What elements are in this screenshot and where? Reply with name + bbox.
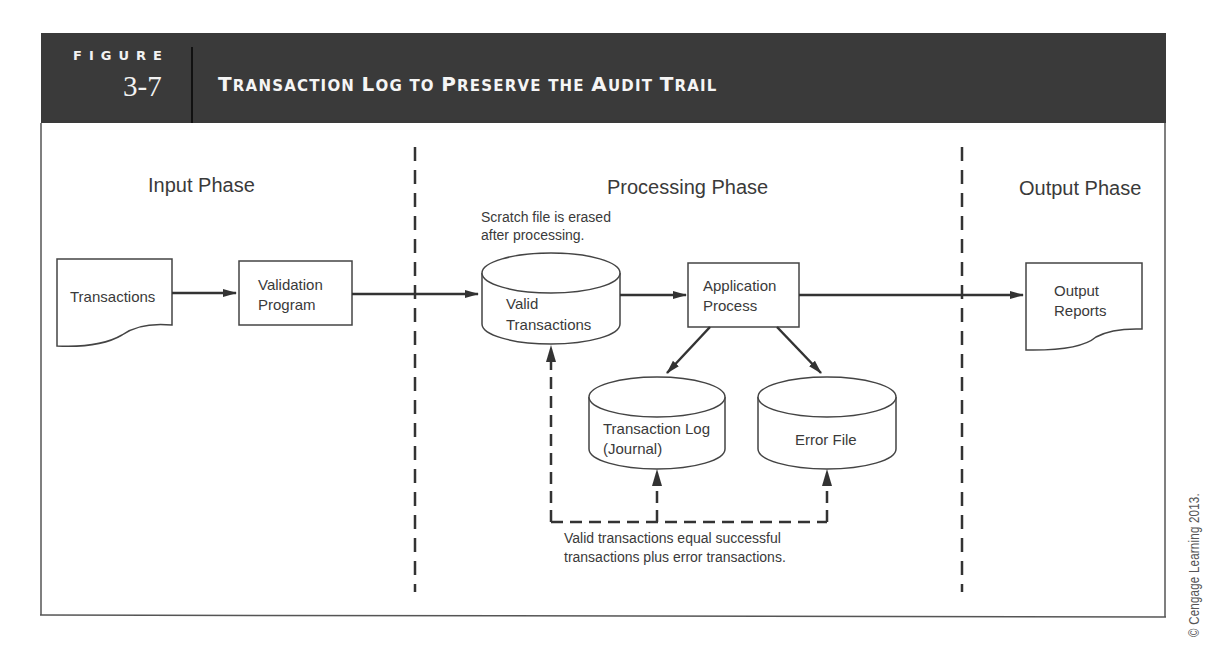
phase-title-processing: Processing Phase — [607, 176, 768, 198]
node-valid-transactions-line1: Valid — [506, 295, 538, 312]
reconcile-note-line2: transactions plus error transactions. — [564, 549, 786, 565]
edge-application-transaction-log — [667, 327, 710, 373]
node-transaction-log: Transaction Log (Journal) — [589, 377, 725, 469]
node-transactions-label: Transactions — [70, 288, 155, 305]
scratch-note-line2: after processing. — [481, 227, 585, 243]
node-transaction-log-line1: Transaction Log — [603, 420, 710, 437]
node-validation-program-line2: Program — [258, 296, 316, 313]
node-transaction-log-line2: (Journal) — [603, 440, 662, 457]
diagram-canvas: Input Phase Processing Phase Output Phas… — [0, 0, 1226, 652]
node-error-file-label: Error File — [795, 431, 857, 448]
node-error-file: Error File — [758, 377, 896, 469]
node-application-process-line2: Process — [703, 297, 757, 314]
node-validation-program-line1: Validation — [258, 276, 323, 293]
edge-application-error-file — [777, 327, 821, 373]
phase-title-output: Output Phase — [1019, 177, 1141, 199]
copyright-notice: © Cengage Learning 2013. — [1186, 493, 1202, 637]
reconcile-note-line1: Valid transactions equal successful — [564, 530, 781, 546]
node-validation-program: Validation Program — [239, 261, 352, 325]
node-output-reports-line1: Output — [1054, 282, 1100, 299]
node-valid-transactions-line2: Transactions — [506, 316, 591, 333]
arrowhead-error-file — [822, 469, 832, 486]
figure: FIGURE 3-7 TRANSACTION LOG TO PRESERVE T… — [0, 0, 1226, 652]
node-transactions: Transactions — [57, 259, 172, 346]
arrowhead-transaction-log — [652, 469, 662, 486]
arrowhead-valid-transactions — [546, 345, 556, 362]
node-application-process-line1: Application — [703, 277, 776, 294]
scratch-note-line1: Scratch file is erased — [481, 209, 611, 225]
node-output-reports: Output Reports — [1026, 263, 1142, 350]
node-application-process: Application Process — [688, 263, 799, 327]
node-output-reports-line2: Reports — [1054, 302, 1107, 319]
node-valid-transactions: Valid Transactions — [482, 253, 620, 344]
phase-title-input: Input Phase — [148, 174, 255, 196]
